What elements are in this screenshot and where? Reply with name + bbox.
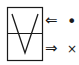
right-double-arrow-icon: ⇒ <box>45 41 58 56</box>
left-double-arrow-icon: ⇐ <box>45 13 58 28</box>
bullet-symbol: • <box>67 14 76 30</box>
cross-symbol: × <box>67 43 77 55</box>
